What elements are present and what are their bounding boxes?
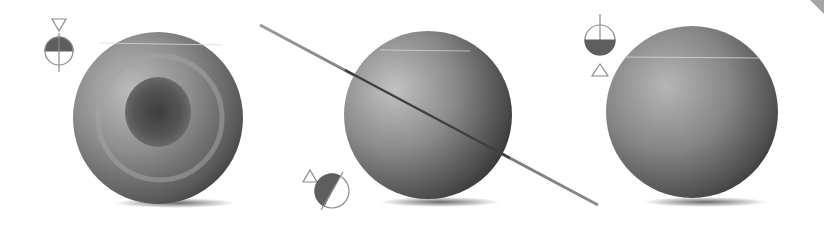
left-orientation-diagram <box>45 19 73 72</box>
right-sphere <box>606 26 778 207</box>
left-sphere <box>73 32 243 208</box>
corner-texture <box>810 0 824 14</box>
sphere-illustration <box>0 0 824 225</box>
middle-sphere <box>260 25 598 207</box>
middle-sphere-shadow <box>380 197 500 207</box>
triangle-down-icon <box>52 19 66 31</box>
triangle-up-icon <box>592 64 608 76</box>
right-sphere-shadow <box>643 197 767 207</box>
middle-orientation-diagram <box>303 170 349 210</box>
inner-core <box>125 77 191 147</box>
illustration <box>0 0 824 225</box>
triangle-up-icon <box>303 170 317 182</box>
right-orientation-diagram <box>585 14 615 76</box>
